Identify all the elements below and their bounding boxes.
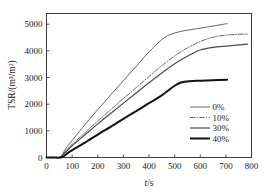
x-tick-label: 700 <box>219 161 233 171</box>
x-tick-label: 500 <box>168 161 182 171</box>
x-axis-title: t/s <box>145 178 154 188</box>
legend-label-40pct: 40% <box>213 134 230 144</box>
legend-label-0pct: 0% <box>213 102 226 112</box>
x-tick-label: 600 <box>194 161 208 171</box>
x-tick-label: 400 <box>142 161 156 171</box>
x-tick-label: 100 <box>65 161 79 171</box>
y-tick-label: 0 <box>38 153 43 163</box>
chart-figure: 0100200300400500600700800 01000200030004… <box>0 0 264 194</box>
series-line-40pct <box>47 80 228 158</box>
y-tick-label: 3000 <box>25 73 44 83</box>
x-tick-label: 0 <box>44 161 49 171</box>
y-tick-label: 1000 <box>25 126 44 136</box>
legend-label-30pct: 30% <box>213 123 230 133</box>
x-tick-label: 200 <box>91 161 105 171</box>
x-tick-label: 800 <box>245 161 259 171</box>
y-tick-label: 4000 <box>25 46 44 56</box>
line-chart: 0100200300400500600700800 01000200030004… <box>0 0 264 194</box>
x-tick-label: 300 <box>117 161 131 171</box>
y-tick-label: 2000 <box>25 99 44 109</box>
x-axis-tick-labels: 0100200300400500600700800 <box>44 161 259 171</box>
y-tick-label: 5000 <box>25 19 44 29</box>
y-axis-title: TSR/(m³/m²) <box>7 60 18 110</box>
legend-label-10pct: 10% <box>213 113 230 123</box>
y-axis-tick-labels: 010002000300040005000 <box>25 19 44 162</box>
chart-legend: 0%10%30%40% <box>190 102 230 144</box>
